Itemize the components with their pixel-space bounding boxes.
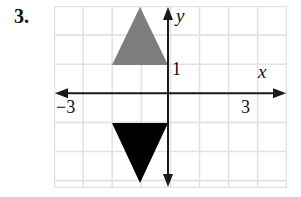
- x-axis-right-arrowhead: [273, 88, 286, 98]
- figure-container: 3.: [0, 0, 301, 197]
- y-axis-top-arrowhead: [163, 7, 173, 20]
- y-axis-label: y: [176, 6, 184, 25]
- coordinate-plane-svg: [54, 6, 287, 188]
- lower-black-triangle: [112, 123, 168, 183]
- x-axis-label: x: [258, 62, 266, 81]
- y-axis: [163, 7, 173, 187]
- problem-number: 3.: [14, 6, 29, 26]
- upper-gray-triangle: [112, 7, 168, 65]
- grid-lines: [54, 6, 287, 188]
- x-tick-label-negative-3: −3: [56, 98, 75, 116]
- x-tick-label-positive-3: 3: [241, 98, 250, 116]
- graph-area: [54, 6, 287, 188]
- y-tick-label-1: 1: [172, 60, 181, 78]
